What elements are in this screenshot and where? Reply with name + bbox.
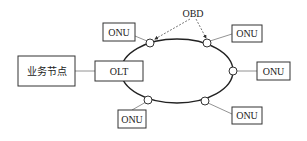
onu-link-top-right bbox=[210, 34, 232, 41]
obd-node-bottom-left bbox=[144, 96, 152, 104]
pon-ring-diagram: 业务节点 OLT OBD ONU ONU ONU ONU ONU bbox=[0, 0, 307, 141]
onu-link-bottom-right bbox=[208, 103, 232, 114]
onu-top-left: ONU bbox=[103, 23, 135, 41]
obd-node-bottom-right bbox=[201, 97, 209, 105]
obd-arrow-left bbox=[155, 19, 190, 39]
onu-label: ONU bbox=[108, 27, 130, 38]
onu-label: ONU bbox=[236, 110, 258, 121]
obd-node-top-right bbox=[203, 39, 211, 47]
onu-link-bottom-left bbox=[132, 102, 146, 110]
onu-label: ONU bbox=[121, 114, 143, 125]
onu-label: ONU bbox=[236, 28, 258, 39]
service-node-label: 业务节点 bbox=[27, 65, 67, 77]
obd-node-top-left bbox=[146, 39, 154, 47]
onu-top-right: ONU bbox=[232, 25, 262, 42]
olt-label: OLT bbox=[110, 66, 129, 77]
onu-bottom-left: ONU bbox=[118, 110, 146, 128]
olt-node: OLT bbox=[95, 61, 143, 81]
obd-node-right bbox=[229, 67, 237, 75]
onu-label: ONU bbox=[263, 66, 285, 77]
obd-label: OBD bbox=[182, 8, 203, 19]
obd-arrow-right bbox=[196, 19, 206, 38]
service-node: 业务节点 bbox=[18, 56, 75, 86]
onu-bottom-right: ONU bbox=[232, 107, 262, 124]
onu-right: ONU bbox=[257, 62, 290, 80]
onu-link-top-left bbox=[135, 36, 147, 41]
